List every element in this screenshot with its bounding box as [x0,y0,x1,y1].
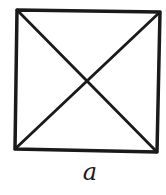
figure-label: a [78,160,102,184]
diagonal-tr-bl [15,12,160,149]
